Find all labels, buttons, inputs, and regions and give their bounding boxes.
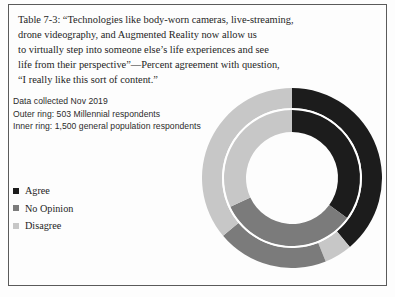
donut-ring-inner <box>224 110 360 246</box>
caption-line: “I really like this sort of content.” <box>18 72 358 87</box>
legend-item-no-opinion: No Opinion <box>13 200 73 218</box>
legend-item-disagree: Disagree <box>13 217 73 235</box>
caption-line: life from their perspective”—Percent agr… <box>18 57 358 72</box>
legend-label-agree: Agree <box>25 182 50 200</box>
legend-swatch-icon-disagree <box>13 223 19 229</box>
legend-label-no-opinion: No Opinion <box>25 200 73 218</box>
donut-chart-svg <box>202 88 382 268</box>
figure-caption: Table 7-3: “Technologies like body-worn … <box>18 12 358 87</box>
legend-item-agree: Agree <box>13 182 73 200</box>
caption-line: Table 7-3: “Technologies like body-worn … <box>18 12 358 27</box>
donut-chart <box>202 88 382 268</box>
frame-border-bottom <box>8 285 387 286</box>
legend-swatch-icon-no-opinion <box>13 205 19 211</box>
frame-border-left <box>8 4 9 286</box>
frame-border-top <box>8 4 387 5</box>
legend-swatch-icon-agree <box>13 188 19 194</box>
caption-line: drone videography, and Augmented Reality… <box>18 27 358 42</box>
caption-line: to virtually step into someone else’s li… <box>18 42 358 57</box>
chart-legend: Agree No Opinion Disagree <box>13 182 73 235</box>
legend-label-disagree: Disagree <box>25 217 61 235</box>
frame-border-right <box>386 4 387 286</box>
figure-container: Table 7-3: “Technologies like body-worn … <box>0 0 395 297</box>
